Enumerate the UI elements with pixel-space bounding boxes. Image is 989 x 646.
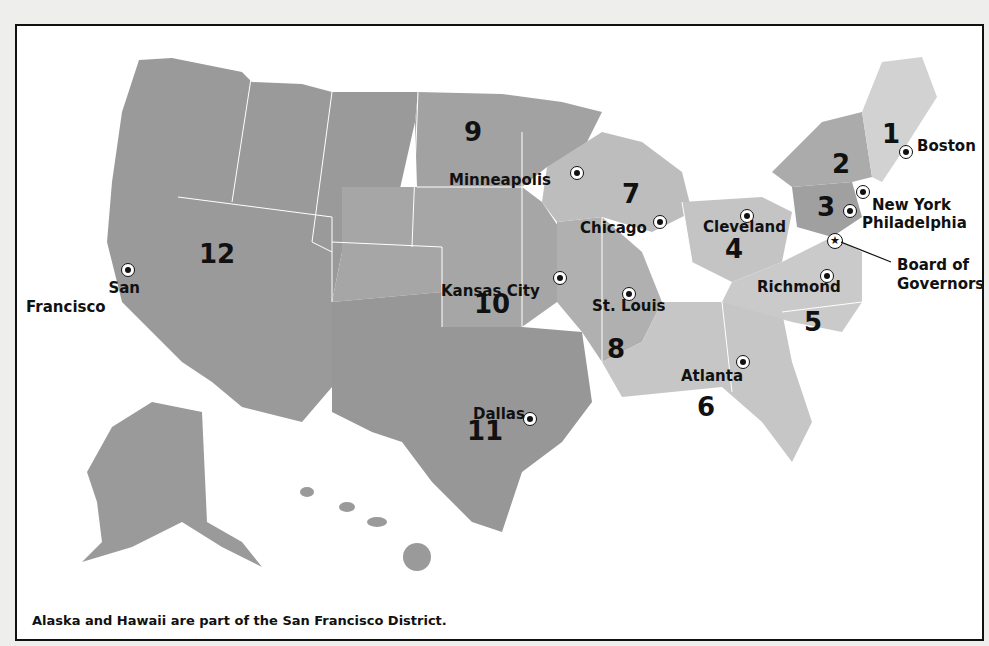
- leader-line: [841, 240, 901, 270]
- district-number-1: 1: [882, 121, 900, 148]
- district-2-region: [772, 112, 872, 187]
- city-label-philadelphia: Philadelphia: [862, 216, 967, 232]
- city-label-san-francisco-line1: San: [80, 281, 140, 297]
- city-marker-chicago[interactable]: [653, 215, 667, 229]
- city-label-atlanta: Atlanta: [681, 369, 743, 385]
- district-number-9: 9: [464, 119, 482, 146]
- district-number-12: 12: [199, 241, 235, 268]
- city-marker-boston[interactable]: [899, 145, 913, 159]
- district-number-8: 8: [607, 336, 625, 363]
- district-number-6: 6: [697, 394, 715, 421]
- city-marker-new-york[interactable]: [856, 185, 870, 199]
- alaska-region: [82, 402, 262, 567]
- city-label-new-york: New York: [872, 198, 951, 214]
- city-label-kansas-city: Kansas City: [441, 284, 540, 300]
- us-map: [17, 26, 984, 641]
- district-number-3: 3: [817, 194, 835, 221]
- city-marker-minneapolis[interactable]: [570, 166, 584, 180]
- board-of-governors-label-line1: Board of: [897, 258, 969, 274]
- city-label-dallas: Dallas: [473, 407, 525, 423]
- district-number-5: 5: [804, 309, 822, 336]
- city-marker-san-francisco[interactable]: [121, 263, 135, 277]
- city-label-st-louis: St. Louis: [592, 299, 666, 315]
- city-label-chicago: Chicago: [580, 221, 647, 237]
- district-number-7: 7: [622, 181, 640, 208]
- district-number-2: 2: [832, 151, 850, 178]
- hawaii-region: [300, 487, 431, 571]
- district-11-region: [332, 292, 592, 532]
- city-label-minneapolis: Minneapolis: [449, 173, 551, 189]
- city-marker-dallas[interactable]: [523, 412, 537, 426]
- board-of-governors-label-line2: Governors: [897, 277, 984, 293]
- map-caption: Alaska and Hawaii are part of the San Fr…: [32, 613, 447, 628]
- city-label-richmond: Richmond: [757, 280, 841, 296]
- city-label-san-francisco-line2: Francisco: [26, 300, 106, 316]
- city-label-cleveland: Cleveland: [703, 220, 786, 236]
- city-marker-philadelphia[interactable]: [843, 204, 857, 218]
- district-number-4: 4: [725, 236, 743, 263]
- map-frame: 9 12 10 11 8 7 4 6 5 3 2 1 Boston New Yo…: [15, 24, 984, 641]
- city-marker-kansas-city[interactable]: [553, 271, 567, 285]
- city-label-boston: Boston: [917, 139, 976, 155]
